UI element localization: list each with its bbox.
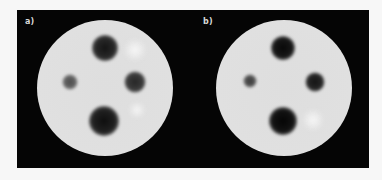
lesion-right: [306, 73, 325, 92]
lesion-top: [92, 35, 118, 61]
lesion-left: [63, 75, 78, 90]
hot-region: [122, 39, 148, 61]
panel-label: a): [25, 17, 34, 26]
phantom-figure: a) b): [17, 10, 369, 168]
panel-b: b): [195, 10, 369, 168]
panel-a: a): [17, 10, 195, 168]
hot-region: [301, 109, 325, 131]
lesion-left: [244, 75, 257, 88]
lesion-top: [271, 36, 295, 60]
lesion-right: [125, 72, 146, 93]
lesion-bottom: [269, 107, 297, 135]
lesion-bottom: [89, 106, 119, 136]
panel-label: b): [203, 17, 213, 26]
hot-region: [128, 102, 146, 118]
